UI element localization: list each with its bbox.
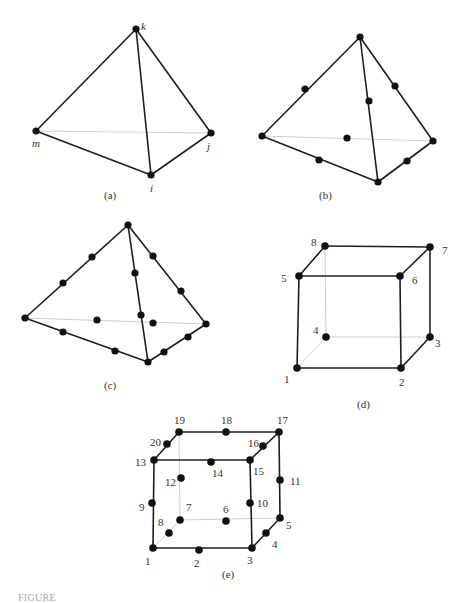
node-4: [262, 529, 270, 537]
labels-e: 1 2 3 4 5 6 7 8 9 10 11 12 13 14 15 16 1…: [135, 414, 301, 569]
node-8: [165, 529, 173, 537]
panel-c-tetrahedron-20-node: (c): [21, 221, 209, 392]
node-2: [195, 546, 203, 554]
svg-text:13: 13: [135, 456, 147, 468]
node-1: [149, 544, 157, 552]
svg-text:2: 2: [194, 557, 200, 569]
svg-text:9: 9: [139, 501, 145, 513]
node-5: [276, 514, 284, 522]
node-9: [148, 499, 156, 507]
svg-text:7: 7: [186, 501, 192, 513]
svg-text:14: 14: [212, 467, 224, 479]
caption-a: (a): [104, 189, 117, 202]
node-3: [426, 333, 434, 341]
node-10: [246, 499, 254, 507]
caption-b: (b): [319, 189, 332, 202]
node-13: [150, 456, 158, 464]
panel-a-tetrahedron-4-node: k m j i (a): [32, 20, 215, 202]
node-5: [295, 272, 303, 280]
svg-text:20: 20: [150, 436, 162, 448]
figure-caption-partial: FIGURE: [18, 592, 56, 603]
svg-text:12: 12: [165, 476, 176, 488]
svg-text:3: 3: [247, 554, 253, 566]
node-i: [147, 171, 154, 178]
node-6: [396, 272, 404, 280]
svg-text:8: 8: [158, 516, 164, 528]
caption-d: (d): [357, 398, 370, 411]
svg-text:16: 16: [248, 437, 260, 449]
node-15: [246, 456, 254, 464]
label-j: j: [205, 140, 210, 152]
panel-e-hexahedron-20-node: 1 2 3 4 5 6 7 8 9 10 11 12 13 14 15 16 1…: [135, 414, 301, 581]
node-1: [293, 364, 301, 372]
svg-text:1: 1: [145, 555, 151, 567]
node-18: [222, 428, 230, 436]
node-2: [397, 364, 405, 372]
node-11: [276, 476, 284, 484]
nodes-e: [148, 428, 284, 554]
panel-b-tetrahedron-10-node: (b): [258, 33, 436, 202]
svg-text:5: 5: [286, 519, 292, 531]
label-6: 6: [412, 274, 418, 286]
svg-text:10: 10: [257, 497, 269, 509]
caption-e: (e): [222, 568, 235, 581]
svg-text:6: 6: [223, 503, 229, 515]
svg-text:19: 19: [174, 414, 186, 426]
node-7: [176, 516, 184, 524]
node-20: [163, 440, 171, 448]
label-4: 4: [313, 324, 319, 336]
svg-text:15: 15: [253, 465, 265, 477]
label-7: 7: [442, 244, 448, 256]
node-3: [248, 544, 256, 552]
node-m: [32, 127, 39, 134]
label-i: i: [150, 182, 153, 194]
nodes-c: [21, 221, 209, 365]
label-m: m: [32, 137, 40, 149]
svg-text:17: 17: [277, 414, 289, 426]
svg-text:4: 4: [272, 538, 278, 550]
label-8: 8: [311, 236, 317, 248]
label-2: 2: [399, 376, 405, 388]
node-6: [222, 517, 230, 525]
caption-c: (c): [104, 379, 117, 392]
label-k: k: [141, 20, 147, 32]
node-j: [207, 129, 214, 136]
label-5: 5: [281, 272, 287, 284]
node-17: [275, 428, 283, 436]
label-1: 1: [284, 373, 290, 385]
panel-d-hexahedron-8-node: 1 2 3 4 5 6 7 8 (d): [281, 236, 448, 411]
node-16: [259, 442, 267, 450]
node-k: [132, 25, 139, 32]
svg-text:11: 11: [290, 475, 301, 487]
nodes-b: [258, 33, 436, 185]
label-3: 3: [435, 337, 441, 349]
node-4: [322, 333, 330, 341]
node-14: [207, 458, 215, 466]
node-12: [177, 474, 185, 482]
node-19: [175, 428, 183, 436]
node-8: [321, 242, 329, 250]
node-7: [426, 243, 434, 251]
svg-text:18: 18: [221, 414, 233, 426]
